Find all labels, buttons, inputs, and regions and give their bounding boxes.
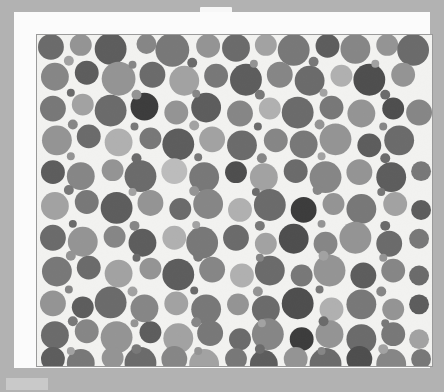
circle-packing-figure[interactable] bbox=[36, 34, 433, 367]
circle-packing-svg bbox=[37, 35, 432, 366]
white-page-sheet bbox=[14, 12, 430, 368]
bottom-left-bar[interactable] bbox=[6, 378, 48, 390]
grain-overlay bbox=[37, 35, 432, 366]
screen-canvas bbox=[0, 0, 444, 392]
